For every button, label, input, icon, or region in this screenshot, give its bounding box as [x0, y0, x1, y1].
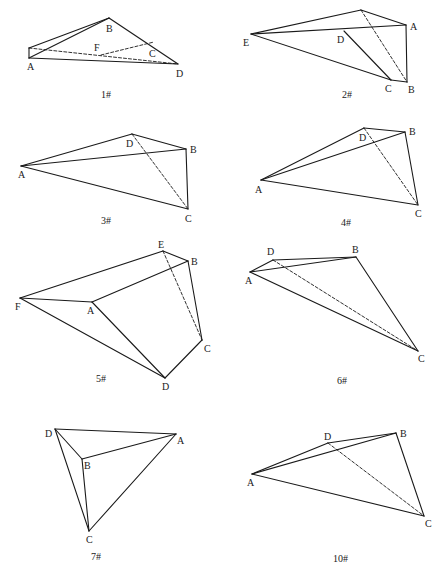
vertex-label-a: A — [87, 305, 95, 316]
edge-DB — [132, 134, 186, 149]
figure-caption: 3# — [101, 215, 111, 226]
edge-FA — [20, 298, 92, 302]
vertex-label-b: B — [409, 126, 416, 137]
vertex-label-c: C — [425, 518, 432, 529]
vertex-label-d: D — [359, 132, 366, 143]
vertex-label-b: B — [408, 84, 415, 95]
edge-DB — [328, 433, 396, 443]
figure-10: ADBC10# — [247, 428, 432, 564]
edge-CD — [165, 340, 202, 378]
vertex-label-a: A — [177, 435, 185, 446]
hidden-edge-DC — [132, 134, 188, 209]
hidden-edge-DC — [364, 128, 418, 205]
vertex-label-a: A — [18, 169, 26, 180]
edge-BA — [82, 434, 176, 459]
figure-caption: 1# — [101, 89, 111, 100]
edge-EC — [251, 34, 391, 80]
vertex-label-d: D — [126, 138, 133, 149]
edge-AC — [261, 180, 418, 205]
edge-AC — [89, 434, 176, 531]
vertex-label-d: D — [162, 381, 169, 392]
edge-DB — [364, 128, 405, 132]
vertex-label-b: B — [352, 244, 359, 255]
edge-AD — [21, 134, 132, 166]
figure-caption: 2# — [342, 89, 352, 100]
figure-7: DABC7# — [45, 428, 185, 562]
vertex-label-b: B — [190, 144, 197, 155]
edge-EA — [251, 25, 406, 34]
figure-4: ADBC4# — [255, 126, 422, 228]
vertex-label-c: C — [185, 213, 192, 224]
vertex-label-b: B — [106, 23, 113, 34]
figure-2: EADCB2# — [243, 10, 418, 100]
edge-AB — [261, 132, 405, 180]
figure-1: ABFCD1# — [27, 18, 183, 100]
figure-caption: 7# — [91, 551, 101, 562]
edge-DB — [55, 429, 82, 459]
figure-6: ADBC6# — [245, 244, 425, 386]
hidden-edge-DC — [273, 260, 418, 351]
vertex-label-a: A — [410, 21, 418, 32]
edge-DA — [55, 429, 176, 434]
edge-AB — [21, 149, 186, 166]
edge-BC — [405, 132, 418, 205]
edge-AD — [261, 128, 364, 180]
vertex-label-b: B — [400, 428, 407, 439]
vertex-label-d: D — [337, 34, 344, 45]
vertex-label-d: D — [267, 246, 274, 257]
vertex-label-d: D — [324, 431, 331, 442]
figure-3: ADBC3# — [18, 134, 197, 226]
edge-AD — [92, 302, 165, 378]
vertex-label-c: C — [204, 343, 211, 354]
vertex-label-a: A — [247, 477, 255, 488]
vertex-label-c: C — [385, 83, 392, 94]
edge-EB — [163, 251, 188, 261]
edge-BC — [188, 261, 202, 340]
vertex-label-b: B — [84, 460, 91, 471]
figure-5: EBFACD5# — [15, 239, 211, 392]
vertex-label-a: A — [255, 184, 263, 195]
vertex-label-f: F — [15, 301, 21, 312]
edge-AC — [21, 166, 188, 209]
vertex-label-c: C — [149, 48, 156, 59]
edge-BD — [109, 18, 178, 64]
edge-FE — [20, 251, 163, 298]
vertex-label-e: E — [243, 37, 249, 48]
vertex-label-c: C — [418, 353, 425, 364]
edge-AC — [252, 474, 424, 516]
hidden-edge-DC — [328, 443, 424, 516]
edge-CB — [391, 80, 407, 82]
vertex-label-d: D — [45, 428, 52, 439]
vertex-label-c: C — [415, 208, 422, 219]
edge-AC — [250, 272, 418, 351]
edge-AD — [252, 443, 328, 474]
edge-AB — [406, 25, 407, 82]
hidden-edge-TB — [361, 10, 407, 82]
vertex-label-e: E — [158, 239, 164, 250]
edge-AB — [92, 261, 188, 302]
edge-BC — [396, 433, 424, 516]
vertex-label-c: C — [86, 534, 93, 545]
edge-TA — [361, 10, 406, 25]
edge-BC — [186, 149, 188, 209]
vertex-label-d: D — [176, 68, 183, 79]
vertex-label-a: A — [27, 61, 35, 72]
vertex-label-f: F — [94, 42, 100, 53]
vertex-label-b: B — [191, 256, 198, 267]
figure-canvas: ABFCD1#EADCB2#ADBC3#ADBC4#EBFACD5#ADBC6#… — [0, 0, 444, 580]
figure-caption: 4# — [341, 217, 351, 228]
figure-caption: 10# — [333, 553, 348, 564]
vertex-label-a: A — [245, 275, 253, 286]
figure-caption: 5# — [96, 373, 106, 384]
figure-caption: 6# — [337, 375, 347, 386]
hidden-edge-FC — [101, 42, 154, 55]
